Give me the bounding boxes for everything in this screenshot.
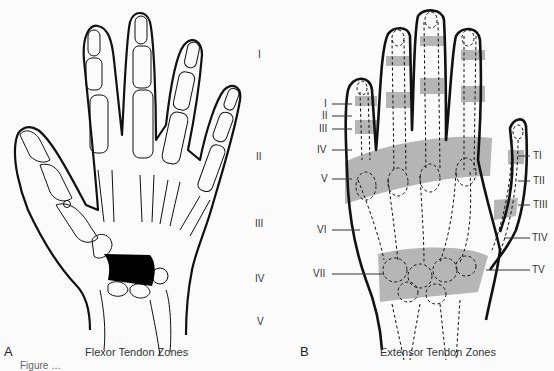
extensor-zone-label: VII [313,269,325,279]
flexor-zone-label: V [257,317,264,327]
extensor-zone-label: III [319,124,327,134]
extensor-zone-label: VI [317,225,326,235]
panel-b-letter: B [300,344,309,359]
thumb-zone-label: TV [532,265,545,275]
extensor-caption: Extensor Tendon Zones [380,346,496,358]
flexor-zone-label: I [258,50,261,60]
panel-a-letter: A [4,344,13,359]
figure-caption-cut: Figure … [20,360,61,371]
extensor-zone-label: I [324,99,327,109]
extensor-thumb-outline [490,119,527,270]
flexor-hand-outline [15,13,240,335]
flexor-zone-label: IV [255,274,264,284]
thumb-zone-label: TI [533,151,542,161]
flexor-zone-label: III [255,219,263,229]
extensor-zone-label: II [322,111,328,121]
thumb-zone-label: TIII [533,200,547,210]
flexor-carpal-blackout [104,254,155,286]
extensor-zone-label: IV [317,145,326,155]
flexor-zone-label: II [256,152,262,162]
thumb-zone-label: TII [533,176,545,186]
extensor-zone-label: V [321,174,328,184]
flexor-caption: Flexor Tendon Zones [85,346,188,358]
thumb-zone-label: TIV [532,233,548,243]
